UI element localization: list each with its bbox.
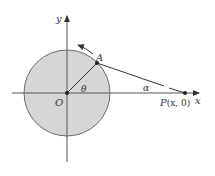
diagram-canvas: y x O A θ α P(x, 0) [0, 0, 215, 176]
point-p-label: P(x, 0) [159, 97, 190, 108]
theta-label: θ [81, 84, 87, 94]
y-axis-label: y [55, 13, 62, 24]
point-origin [65, 91, 69, 95]
alpha-label: α [143, 83, 149, 93]
origin-label: O [55, 97, 63, 108]
x-axis-label: x [195, 95, 201, 106]
line-ap-segment-2 [169, 88, 185, 93]
point-a-label: A [95, 52, 103, 63]
point-p [183, 91, 187, 95]
